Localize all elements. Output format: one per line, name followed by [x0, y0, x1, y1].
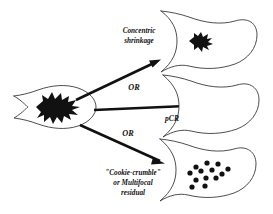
- label-cookie-crumble-line3: residual: [121, 189, 145, 197]
- label-or-upper: OR: [128, 83, 140, 92]
- label-concentric-shrinkage-line2: shrinkage: [123, 37, 154, 45]
- label-concentric-shrinkage-line1: Concentric: [123, 27, 157, 35]
- label-pcr: pCR: [164, 114, 179, 123]
- arrow-to-concentric-shrinkage: [76, 60, 161, 101]
- label-cookie-crumble-line1: "Cookie-crumble": [105, 169, 161, 177]
- concentric-result-breast-outline: [161, 11, 257, 72]
- label-or-lower: OR: [122, 129, 134, 138]
- arrow-to-pcr: [94, 103, 192, 111]
- cookie-crumble-result-breast-outline: [160, 139, 256, 201]
- response-pattern-diagram: Concentric shrinkage OR pCR OR "Cookie-c…: [0, 0, 273, 214]
- diagram-canvas: Concentric shrinkage OR pCR OR "Cookie-c…: [0, 0, 273, 214]
- label-cookie-crumble-line2: or Multifocal: [113, 179, 152, 187]
